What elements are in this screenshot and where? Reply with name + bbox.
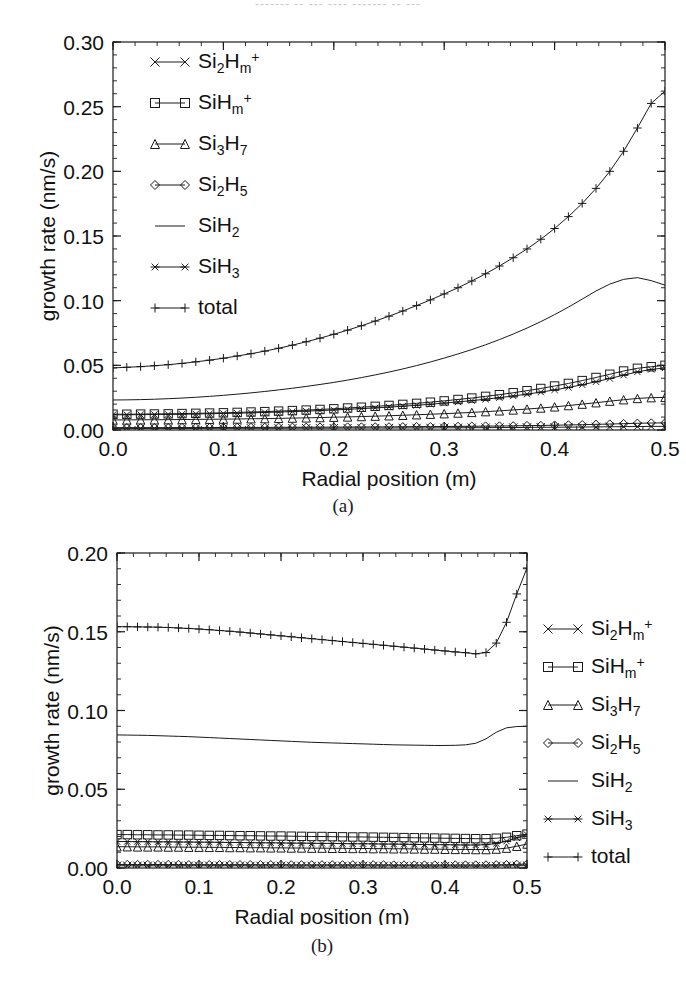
marker-total	[523, 245, 531, 253]
marker-total	[205, 626, 213, 634]
x-axis-label: Radial position (m)	[234, 905, 409, 925]
marker-total	[410, 644, 418, 652]
marker-total	[233, 352, 241, 360]
marker-total	[261, 347, 269, 355]
marker-total	[185, 624, 193, 632]
marker-total	[349, 638, 357, 646]
x-tick-label: 0.4	[540, 437, 570, 460]
series-line-SiH2	[117, 726, 527, 745]
marker-total	[274, 344, 282, 352]
y-tick-label: 0.25	[63, 96, 104, 119]
marker-SiH3	[633, 369, 641, 375]
marker-total	[308, 634, 316, 642]
marker-total	[619, 147, 627, 155]
legend-marker-SiH3	[544, 816, 553, 823]
chart-svg-panel-a: 0.00.10.20.30.40.50.000.050.100.150.200.…	[0, 14, 686, 494]
x-tick-label: 0.4	[430, 875, 460, 898]
marker-total	[219, 354, 227, 362]
x-tick-label: 0.3	[348, 875, 377, 898]
marker-SiH3	[357, 406, 365, 412]
legend-label-Si3H7: Si3H7	[198, 131, 248, 158]
marker-total	[454, 284, 462, 292]
marker-SiH3	[523, 391, 531, 397]
marker-total	[338, 637, 346, 645]
chart-svg-panel-b: 0.00.10.20.30.40.50.000.050.100.150.20Ra…	[0, 525, 686, 925]
marker-total	[123, 363, 131, 371]
y-tick-label: 0.20	[63, 160, 104, 183]
marker-total	[133, 623, 141, 631]
marker-total	[267, 631, 275, 639]
y-tick-label: 0.15	[63, 225, 104, 248]
marker-total	[164, 360, 172, 368]
marker-total	[330, 330, 338, 338]
marker-total	[441, 647, 449, 655]
marker-total	[256, 630, 264, 638]
marker-total	[369, 640, 377, 648]
chart-panel-a: 0.00.10.20.30.40.50.000.050.100.150.200.…	[0, 14, 686, 494]
marker-total	[400, 643, 408, 651]
x-tick-label: 0.5	[650, 437, 679, 460]
marker-total	[359, 639, 367, 647]
marker-total	[440, 290, 448, 298]
series-total	[109, 87, 669, 372]
marker-total	[357, 322, 365, 330]
marker-total	[502, 618, 510, 626]
y-tick-label: 0.05	[67, 778, 108, 801]
marker-total	[236, 628, 244, 636]
marker-total	[316, 334, 324, 342]
marker-total	[385, 312, 393, 320]
x-tick-label: 0.1	[184, 875, 213, 898]
marker-SiH3	[343, 406, 351, 412]
legend-label-Si2Hm+: Si2Hm+	[198, 49, 260, 76]
legend-label-SiHm+: SiHm+	[198, 90, 252, 117]
x-tick-label: 0.1	[209, 437, 238, 460]
marker-total	[481, 270, 489, 278]
series-Si2Hm+	[113, 861, 531, 870]
marker-total	[277, 632, 285, 640]
legend-label-Si2H5: Si2H5	[198, 172, 248, 199]
marker-total	[412, 301, 420, 309]
data-series-group	[109, 87, 669, 433]
marker-total	[343, 326, 351, 334]
x-tick-label: 0.5	[512, 875, 541, 898]
y-tick-label: 0.10	[67, 700, 108, 723]
marker-total	[431, 646, 439, 654]
y-axis-label: growth rate (nm/s)	[36, 151, 59, 321]
legend-label-Si2H5: Si2H5	[591, 730, 641, 757]
marker-total	[215, 626, 223, 634]
data-series-group	[113, 564, 531, 871]
legend-label-SiH3: SiH3	[198, 254, 240, 281]
caption-b: (b)	[222, 935, 422, 957]
marker-total	[113, 623, 121, 631]
y-tick-label: 0.30	[63, 31, 104, 54]
legend-marker-total	[544, 853, 553, 862]
marker-total	[154, 623, 162, 631]
marker-total	[302, 338, 310, 346]
series-SiH2	[113, 278, 665, 400]
marker-total	[371, 317, 379, 325]
marker-SiH3	[537, 389, 545, 395]
legend-panel-b: Si2Hm+SiHm+Si3H7Si2H5SiH2SiH3total	[544, 616, 653, 867]
legend-marker-SiH3	[181, 264, 190, 271]
series-SiH2	[117, 726, 527, 745]
legend-panel-a: Si2Hm+SiHm+Si3H7Si2H5SiH2SiH3total	[151, 49, 260, 318]
legend-marker-SiH3	[574, 816, 583, 823]
axis-ticks	[117, 553, 527, 868]
y-tick-label: 0.00	[67, 857, 108, 880]
page-top-text-fragment: ------- -- --- ---- ------- -- ---	[255, 0, 685, 9]
legend-label-SiH3: SiH3	[591, 806, 633, 833]
legend-marker-total	[181, 304, 190, 313]
marker-total	[174, 624, 182, 632]
marker-total	[164, 623, 172, 631]
legend-label-total: total	[198, 295, 238, 318]
x-axis-label: Radial position (m)	[301, 467, 476, 490]
legend-label-Si3H7: Si3H7	[591, 692, 641, 719]
marker-total	[379, 641, 387, 649]
marker-total	[509, 254, 517, 262]
marker-total	[426, 296, 434, 304]
series-total	[113, 564, 531, 658]
legend-marker-total	[151, 304, 160, 313]
marker-total	[420, 645, 428, 653]
marker-total	[226, 627, 234, 635]
series-SiHm+	[109, 361, 669, 418]
